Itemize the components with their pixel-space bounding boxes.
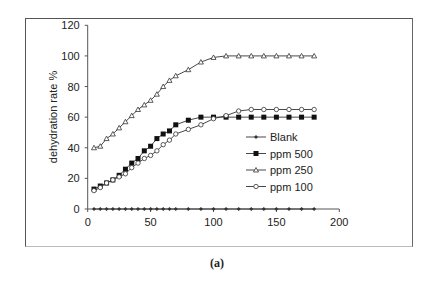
- legend-item: ppm 500: [246, 148, 313, 160]
- x-tick-label: 100: [204, 216, 222, 228]
- y-tick-label: 40: [67, 142, 79, 154]
- legend-item: Blank: [246, 131, 298, 143]
- y-tick-label: 0: [74, 203, 80, 215]
- legend-label: ppm 500: [270, 148, 313, 160]
- x-tick-label: 50: [144, 216, 156, 228]
- legend-item: ppm 250: [246, 164, 313, 176]
- legend: Blankppm 500ppm 250ppm 100: [246, 131, 313, 193]
- legend-label: ppm 100: [270, 181, 313, 193]
- legend-item: ppm 100: [246, 181, 313, 193]
- series-blank: [92, 207, 316, 211]
- line-chart: 020406080100120050100150200 Blankppm 500…: [0, 0, 434, 287]
- y-tick-label: 20: [67, 172, 79, 184]
- x-tick-label: 150: [267, 216, 285, 228]
- figure-caption: (a): [0, 256, 434, 271]
- y-tick-label: 100: [61, 50, 79, 62]
- y-tick-label: 80: [67, 81, 79, 93]
- axes: 020406080100120050100150200: [61, 19, 348, 228]
- x-tick-label: 0: [85, 216, 91, 228]
- x-tick-label: 200: [330, 216, 348, 228]
- legend-label: ppm 250: [270, 164, 313, 176]
- y-tick-label: 120: [61, 19, 79, 31]
- y-tick-label: 60: [67, 111, 79, 123]
- y-axis-label: dehydration rate %: [47, 71, 59, 164]
- legend-label: Blank: [270, 131, 298, 143]
